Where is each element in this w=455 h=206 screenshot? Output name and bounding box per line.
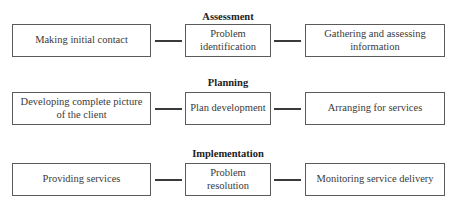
connector-line [155, 40, 182, 42]
section-title-assessment: Assessment [185, 11, 271, 22]
step-providing-services: Providing services [12, 163, 151, 196]
step-problem-identification: Problem identification [185, 24, 271, 57]
connector-line [274, 40, 301, 42]
step-making-initial-contact: Making initial contact [12, 24, 151, 57]
step-arranging-services: Arranging for services [305, 92, 445, 125]
connector-line [274, 179, 301, 181]
step-monitoring-service-delivery: Monitoring service delivery [305, 163, 445, 196]
section-title-planning: Planning [185, 77, 271, 88]
step-problem-resolution: Problem resolution [185, 163, 271, 196]
step-plan-development: Plan development [185, 92, 271, 125]
step-developing-complete-picture: Developing complete picture of the clien… [12, 92, 151, 125]
connector-line [155, 108, 182, 110]
step-gathering-information: Gathering and assessing information [305, 24, 445, 57]
section-title-implementation: Implementation [185, 148, 271, 159]
connector-line [274, 108, 301, 110]
connector-line [155, 179, 182, 181]
